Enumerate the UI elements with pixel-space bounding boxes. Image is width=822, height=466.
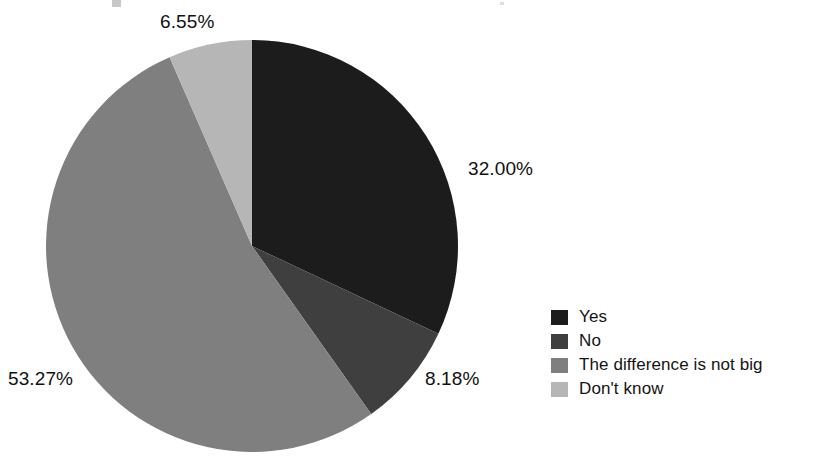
legend-swatch-icon <box>551 310 568 325</box>
scan-artifact <box>112 0 121 7</box>
legend-item[interactable]: No <box>551 329 763 353</box>
scan-artifact-secondary <box>500 2 504 5</box>
pie-slices-group <box>46 40 458 452</box>
legend-swatch-icon <box>551 382 568 397</box>
legend-item[interactable]: Yes <box>551 305 763 329</box>
pie-chart-figure: 6.55% 32.00% 8.18% 53.27% YesNoThe diffe… <box>0 0 822 466</box>
pie-value-label-difference: 53.27% <box>8 368 73 390</box>
legend-item[interactable]: The difference is not big <box>551 353 763 377</box>
pie-chart-plot-area <box>46 40 458 452</box>
pie-value-label-no: 8.18% <box>425 368 479 390</box>
legend-item-label: Yes <box>579 307 607 327</box>
legend-item-label: Don't know <box>579 379 664 399</box>
legend-swatch-icon <box>551 334 568 349</box>
legend-item[interactable]: Don't know <box>551 377 763 401</box>
legend-item-label: The difference is not big <box>579 355 763 375</box>
legend-item-label: No <box>579 331 601 351</box>
pie-value-label-dont-know: 6.55% <box>160 11 214 33</box>
pie-chart-svg <box>46 40 458 452</box>
chart-legend: YesNoThe difference is not bigDon't know <box>551 305 763 401</box>
pie-value-label-yes: 32.00% <box>468 158 533 180</box>
legend-swatch-icon <box>551 358 568 373</box>
